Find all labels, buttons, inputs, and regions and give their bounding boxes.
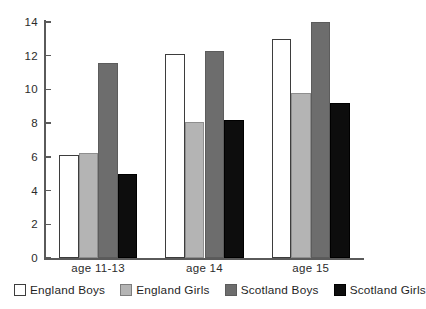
bar-scotland-girls-age-11-13 bbox=[118, 174, 138, 258]
legend-label: Scotland Girls bbox=[350, 283, 426, 297]
bar-scotland-girls-age-15 bbox=[330, 103, 350, 258]
bar-england-girls-age-15 bbox=[291, 93, 311, 258]
bar-england-girls-age-11-13 bbox=[79, 153, 99, 258]
legend-swatch-icon bbox=[334, 284, 346, 296]
legend-item-england-boys: England Boys bbox=[14, 283, 105, 297]
legend-swatch-icon bbox=[120, 284, 132, 296]
bar-england-girls-age-14 bbox=[185, 122, 205, 258]
legend-item-scotland-boys: Scotland Boys bbox=[225, 283, 319, 297]
legend-item-scotland-girls: Scotland Girls bbox=[334, 283, 426, 297]
chart-legend: England BoysEngland GirlsScotland BoysSc… bbox=[14, 281, 376, 299]
category-label: age 11-13 bbox=[71, 262, 125, 274]
legend-swatch-icon bbox=[14, 284, 26, 296]
bar-england-boys-age-15 bbox=[272, 39, 292, 258]
bar-england-boys-age-14 bbox=[165, 54, 185, 258]
legend-label: England Girls bbox=[136, 283, 209, 297]
bar-england-boys-age-11-13 bbox=[59, 155, 79, 258]
bar-scotland-boys-age-14 bbox=[205, 51, 225, 258]
bar-scotland-boys-age-11-13 bbox=[98, 63, 118, 258]
legend-item-england-girls: England Girls bbox=[120, 283, 209, 297]
legend-swatch-icon bbox=[225, 284, 237, 296]
bar-scotland-girls-age-14 bbox=[224, 120, 244, 258]
category-label: age 15 bbox=[292, 262, 329, 274]
bar-scotland-boys-age-15 bbox=[311, 22, 331, 258]
legend-label: Scotland Boys bbox=[241, 283, 319, 297]
category-label: age 14 bbox=[186, 262, 223, 274]
legend-label: England Boys bbox=[30, 283, 105, 297]
